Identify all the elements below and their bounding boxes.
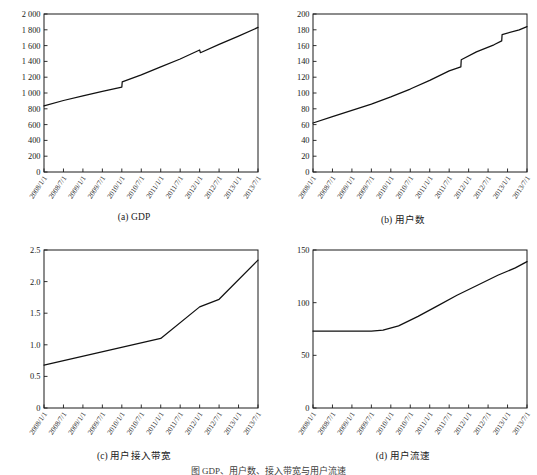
y-axis-tick-label: 800: [28, 105, 41, 114]
chart-panel-bandwidth: 00.51.01.52.02.52008/1/12008/7/12009/1/1…: [0, 236, 268, 473]
data-series-line: [44, 260, 258, 365]
x-axis-tick-label: 2008/7/1: [47, 174, 68, 200]
chart-panel-gdp: 02004006008001 0001 2001 4001 6001 8002 …: [0, 0, 268, 237]
x-axis-tick-label: 2009/7/1: [86, 410, 107, 436]
y-axis-tick-label: 1 200: [22, 73, 41, 82]
x-axis-tick-label: 2008/1/1: [297, 174, 318, 200]
x-axis-tick-label: 2009/7/1: [355, 410, 376, 436]
data-series-line: [313, 27, 527, 123]
x-axis-tick-label: 2010/7/1: [394, 410, 415, 436]
x-axis-tick-label: 2013/7/1: [511, 174, 532, 200]
y-axis-tick-label: 400: [28, 136, 41, 145]
x-axis-tick-label: 2012/1/1: [453, 174, 474, 200]
x-axis-tick-label: 2010/7/1: [394, 174, 415, 200]
x-axis-tick-label: 2012/1/1: [453, 410, 474, 436]
y-axis-tick-label: 1.0: [30, 341, 40, 350]
x-axis-tick-label: 2011/7/1: [433, 410, 454, 436]
x-axis-tick-label: 2011/1/1: [145, 174, 166, 200]
chart-svg-gdp: 02004006008001 0001 2001 4001 6001 8002 …: [0, 0, 268, 237]
y-axis-tick-label: 0.5: [30, 372, 40, 381]
x-axis-tick-label: 2008/1/1: [28, 174, 49, 200]
x-axis-tick-label: 2012/1/1: [184, 410, 205, 436]
x-axis-tick-label: 2008/1/1: [28, 410, 49, 436]
figure-footer-caption: 图 GDP、用户数、接入带宽与用户流速: [0, 466, 537, 475]
y-axis-tick-label: 150: [297, 246, 310, 255]
x-axis-tick-label: 2008/7/1: [47, 410, 68, 436]
y-axis-tick-label: 1 800: [22, 26, 41, 35]
chart-caption-users: (b) 用户数: [269, 212, 537, 226]
y-axis-tick-label: 1 400: [22, 57, 41, 66]
y-axis-tick-label: 140: [297, 57, 310, 66]
y-axis-tick-label: 200: [297, 10, 310, 19]
x-axis-tick-label: 2008/1/1: [297, 410, 318, 436]
x-axis-tick-label: 2009/1/1: [67, 174, 88, 200]
x-axis-tick-label: 2012/7/1: [472, 410, 493, 436]
x-axis-tick-label: 2010/1/1: [106, 410, 127, 436]
x-axis-tick-label: 2012/7/1: [203, 410, 224, 436]
y-axis-tick-label: 1 600: [22, 42, 41, 51]
y-axis-tick-label: 180: [297, 26, 310, 35]
y-axis-tick-label: 0: [36, 168, 40, 177]
y-axis-tick-label: 80: [301, 105, 309, 114]
x-axis-tick-label: 2013/7/1: [242, 174, 263, 200]
x-axis-tick-label: 2009/1/1: [67, 410, 88, 436]
y-axis-tick-label: 200: [28, 152, 41, 161]
x-axis-tick-label: 2009/7/1: [86, 174, 107, 200]
data-series-line: [44, 27, 258, 106]
x-axis-tick-label: 2011/7/1: [433, 174, 454, 200]
y-axis-tick-label: 600: [28, 121, 41, 130]
y-axis-tick-label: 100: [297, 299, 310, 308]
x-axis-tick-label: 2009/7/1: [355, 174, 376, 200]
x-axis-tick-label: 2012/1/1: [184, 174, 205, 200]
x-axis-tick-label: 2010/7/1: [125, 410, 146, 436]
y-axis-tick-label: 2 000: [22, 10, 41, 19]
x-axis-tick-label: 2011/7/1: [164, 174, 185, 200]
x-axis-tick-label: 2011/7/1: [164, 410, 185, 436]
y-axis-tick-label: 100: [297, 89, 310, 98]
y-axis-tick-label: 0: [305, 168, 309, 177]
x-axis-tick-label: 2009/1/1: [336, 410, 357, 436]
x-axis-tick-label: 2011/1/1: [414, 174, 435, 200]
y-axis-tick-label: 60: [301, 121, 309, 130]
x-axis-tick-label: 2012/7/1: [203, 174, 224, 200]
chart-caption-gdp: (a) GDP: [0, 212, 268, 222]
x-axis-tick-label: 2013/1/1: [222, 410, 243, 436]
chart-panel-flowrate: 0501001502008/1/12008/7/12009/1/12009/7/…: [269, 236, 537, 473]
x-axis-tick-label: 2008/7/1: [316, 174, 337, 200]
y-axis-tick-label: 120: [297, 73, 310, 82]
chart-caption-flowrate: (d) 用户流速: [269, 448, 537, 462]
figure-container: 02004006008001 0001 2001 4001 6001 8002 …: [0, 0, 537, 475]
y-axis-tick-label: 20: [301, 152, 309, 161]
y-axis-tick-label: 40: [301, 136, 309, 145]
data-series-line: [313, 262, 527, 332]
y-axis-tick-label: 50: [301, 351, 309, 360]
chart-panel-users: 0204060801001201401601802002008/1/12008/…: [269, 0, 537, 237]
x-axis-tick-label: 2010/1/1: [375, 410, 396, 436]
x-axis-tick-label: 2013/1/1: [222, 174, 243, 200]
y-axis-tick-label: 2.5: [30, 246, 40, 255]
x-axis-tick-label: 2008/7/1: [316, 410, 337, 436]
x-axis-tick-label: 2013/1/1: [491, 410, 512, 436]
y-axis-tick-label: 1.5: [30, 309, 40, 318]
x-axis-tick-label: 2011/1/1: [414, 410, 435, 436]
x-axis-tick-label: 2013/7/1: [242, 410, 263, 436]
y-axis-tick-label: 2.0: [30, 278, 40, 287]
x-axis-tick-label: 2010/1/1: [106, 174, 127, 200]
x-axis-tick-label: 2012/7/1: [472, 174, 493, 200]
y-axis-tick-label: 0: [36, 404, 40, 413]
x-axis-tick-label: 2009/1/1: [336, 174, 357, 200]
y-axis-tick-label: 0: [305, 404, 309, 413]
y-axis-tick-label: 160: [297, 42, 310, 51]
x-axis-tick-label: 2010/1/1: [375, 174, 396, 200]
chart-svg-users: 0204060801001201401601802002008/1/12008/…: [269, 0, 537, 237]
chart-svg-flowrate: 0501001502008/1/12008/7/12009/1/12009/7/…: [269, 236, 537, 473]
chart-caption-bandwidth: (c) 用户接入带宽: [0, 448, 268, 462]
y-axis-tick-label: 1 000: [22, 89, 41, 98]
x-axis-tick-label: 2013/7/1: [511, 410, 532, 436]
x-axis-tick-label: 2013/1/1: [491, 174, 512, 200]
x-axis-tick-label: 2011/1/1: [145, 410, 166, 436]
x-axis-tick-label: 2010/7/1: [125, 174, 146, 200]
chart-svg-bandwidth: 00.51.01.52.02.52008/1/12008/7/12009/1/1…: [0, 236, 268, 473]
